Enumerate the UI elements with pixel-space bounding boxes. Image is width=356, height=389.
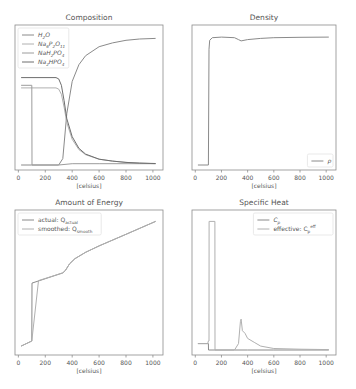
chart-title: Composition (66, 13, 113, 22)
x-tick-label: 0 (16, 359, 20, 366)
specific-heat-panel: Specific Heat02004006008001000[celsius]C… (192, 198, 336, 374)
x-tick-label: 800 (120, 174, 132, 181)
composition-panel: Composition02004006008001000[celsius]H2O… (15, 13, 163, 189)
plot-lines (21, 221, 156, 346)
x-tick-label: 600 (93, 174, 105, 181)
x-tick-label: 600 (268, 359, 280, 366)
series-line (21, 85, 156, 165)
series-line (198, 37, 329, 165)
x-tick-label: 0 (16, 174, 20, 181)
x-tick-label: 400 (66, 174, 78, 181)
legend: Cpeffective: Cpeff (253, 213, 333, 235)
plot-lines (198, 37, 329, 165)
figure: Composition02004006008001000[celsius]H2O… (0, 0, 356, 389)
energy-panel: Amount of Energy02004006008001000[celsiu… (15, 198, 163, 374)
x-tick-label: 400 (242, 174, 254, 181)
x-tick-label: 1000 (145, 174, 160, 181)
legend: H2ONa6P2O11NaH2PO4Na2HPO4 (18, 28, 69, 68)
x-tick-label: 200 (40, 174, 52, 181)
plot-lines (198, 221, 329, 350)
series-line (21, 78, 156, 164)
x-tick-label: 800 (120, 359, 132, 366)
x-tick-label: 600 (93, 359, 105, 366)
series-line (21, 88, 156, 164)
x-tick-label: 1000 (319, 174, 334, 181)
axes-frame (192, 25, 336, 170)
x-tick-label: 200 (216, 359, 228, 366)
x-tick-label: 800 (294, 359, 306, 366)
x-tick-label: 400 (242, 359, 254, 366)
legend: ρ (307, 154, 333, 167)
x-axis-label: [celsius] (76, 367, 101, 374)
x-tick-label: 1000 (145, 359, 160, 366)
x-tick-label: 600 (268, 174, 280, 181)
x-axis-label: [celsius] (251, 367, 276, 374)
x-tick-label: 200 (216, 174, 228, 181)
chart-title: Density (250, 13, 279, 22)
x-tick-label: 0 (193, 359, 197, 366)
chart-title: Amount of Energy (55, 198, 123, 207)
series-line (21, 221, 156, 346)
legend: actual: Qactualsmoothed: Qsmooth (18, 213, 101, 235)
x-tick-label: 0 (193, 174, 197, 181)
x-tick-label: 400 (66, 359, 78, 366)
chart-title: Specific Heat (239, 198, 288, 207)
x-axis-label: [celsius] (251, 182, 276, 189)
series-line (21, 221, 156, 346)
legend-label: ρ (327, 157, 331, 165)
density-panel: Density02004006008001000[celsius]ρ (192, 13, 336, 189)
x-axis-label: [celsius] (76, 182, 101, 189)
x-tick-label: 1000 (319, 359, 334, 366)
series-line (198, 221, 329, 350)
x-tick-label: 800 (294, 174, 306, 181)
x-tick-label: 200 (40, 359, 52, 366)
